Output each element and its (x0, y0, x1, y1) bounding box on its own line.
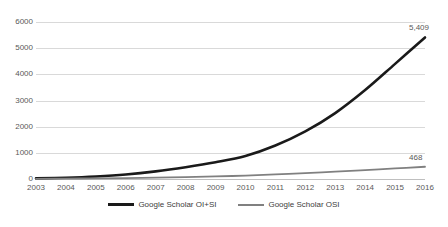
x-axis-labels: 2003200420052006200720082009201020112012… (36, 183, 425, 197)
series-line-google-scholar-oi-si (36, 37, 425, 178)
x-tick-label-2014: 2014 (356, 183, 374, 193)
legend-item-google-scholar-oi-si[interactable]: Google Scholar OI+SI (108, 200, 216, 209)
line-chart: 0100020003000400050006000 5,409468 20032… (0, 0, 448, 227)
legend-swatch-icon (108, 203, 134, 206)
x-tick-label-2016: 2016 (416, 183, 434, 193)
plot-area (36, 22, 425, 179)
x-tick-label-2004: 2004 (57, 183, 75, 193)
series-lines (36, 22, 425, 179)
legend-label: Google Scholar OI+SI (138, 200, 216, 209)
x-tick-label-2015: 2015 (386, 183, 404, 193)
y-tick-label-3000: 3000 (0, 97, 33, 105)
y-tick-label-6000: 6000 (0, 18, 33, 26)
x-tick-label-2005: 2005 (87, 183, 105, 193)
x-tick-label-2009: 2009 (207, 183, 225, 193)
y-tick-label-5000: 5000 (0, 44, 33, 52)
x-tick-label-2013: 2013 (326, 183, 344, 193)
legend-swatch-icon (238, 204, 264, 206)
legend-item-google-scholar-osi[interactable]: Google Scholar OSI (238, 200, 339, 209)
legend-label: Google Scholar OSI (268, 200, 339, 209)
end-label-google-scholar-osi: 468 (409, 153, 422, 162)
y-tick-label-4000: 4000 (0, 70, 33, 78)
x-tick-label-2007: 2007 (147, 183, 165, 193)
x-tick-label-2008: 2008 (177, 183, 195, 193)
x-tick-label-2003: 2003 (27, 183, 45, 193)
y-tick-label-2000: 2000 (0, 123, 33, 131)
x-tick-label-2012: 2012 (296, 183, 314, 193)
x-tick-label-2006: 2006 (117, 183, 135, 193)
y-tick-label-0: 0 (0, 175, 33, 183)
x-tick-label-2010: 2010 (237, 183, 255, 193)
end-label-google-scholar-oi-si: 5,409 (409, 23, 429, 32)
x-tick-label-2011: 2011 (267, 183, 284, 193)
y-tick-label-1000: 1000 (0, 149, 33, 157)
chart-legend: Google Scholar OI+SIGoogle Scholar OSI (0, 200, 448, 209)
